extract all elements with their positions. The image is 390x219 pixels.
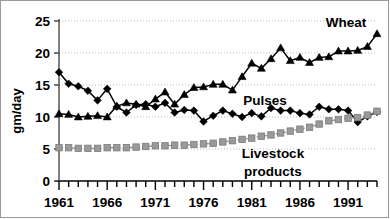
x-tick-label: 1981 (237, 195, 268, 210)
data-point-marker (248, 59, 256, 66)
y-tick-label: 10 (35, 110, 50, 125)
data-point-marker (239, 136, 245, 142)
data-point-marker (181, 142, 187, 148)
y-axis-title: gm/day (9, 87, 24, 133)
y-tick-label: 5 (42, 142, 50, 157)
data-series-layer (55, 30, 381, 152)
data-point-marker (65, 145, 71, 151)
data-point-marker (191, 141, 197, 147)
y-tick-label: 20 (35, 46, 50, 61)
data-point-marker (277, 130, 283, 136)
data-point-marker (296, 53, 304, 60)
data-point-marker (286, 107, 294, 115)
series-label-livestock-line1: Livestock (242, 146, 305, 161)
x-tick-label: 1971 (140, 195, 171, 210)
x-tick-label: 1991 (333, 195, 364, 210)
data-point-marker (200, 141, 206, 147)
y-tick-label: 15 (35, 78, 51, 93)
x-tick-label: 1966 (92, 195, 123, 210)
chart-frame: 0510152025 1961196619711976198119861991 … (0, 0, 389, 218)
data-point-marker (122, 99, 130, 106)
series-label-livestock-line2: products (244, 164, 302, 179)
data-point-marker (326, 118, 332, 124)
x-tick-label: 1961 (44, 195, 75, 210)
data-point-marker (133, 144, 139, 150)
series-line (59, 34, 377, 117)
x-tick-label: 1976 (189, 195, 220, 210)
data-point-marker (297, 126, 303, 132)
data-point-marker (287, 128, 293, 134)
data-point-marker (94, 145, 100, 151)
data-point-marker (374, 108, 380, 114)
data-point-marker (152, 103, 160, 111)
data-point-marker (74, 82, 82, 90)
data-point-marker (364, 112, 370, 118)
y-tick-label: 0 (42, 174, 50, 189)
data-point-marker (56, 145, 62, 151)
series-livestock-products (56, 108, 380, 152)
series-annotations: WheatPulsesLivestockproducts (242, 15, 367, 179)
series-label-wheat: Wheat (326, 15, 367, 30)
data-point-marker (277, 44, 285, 51)
data-point-marker (85, 145, 91, 151)
data-point-marker (123, 145, 129, 151)
data-point-marker (335, 116, 341, 122)
data-point-marker (355, 114, 361, 120)
data-point-marker (258, 133, 264, 139)
data-point-marker (209, 112, 217, 120)
data-point-marker (152, 143, 158, 149)
y-axis-ticks: 0510152025 (35, 14, 60, 189)
data-point-marker (161, 88, 169, 95)
data-point-marker (335, 106, 343, 114)
data-point-marker (316, 121, 322, 127)
data-point-marker (306, 124, 312, 130)
data-point-marker (345, 115, 351, 121)
data-point-marker (171, 142, 177, 148)
x-tick-label: 1986 (285, 195, 316, 210)
data-point-marker (229, 137, 235, 143)
data-point-marker (210, 140, 216, 146)
data-point-marker (219, 107, 227, 115)
data-point-marker (75, 145, 81, 151)
data-point-marker (220, 139, 226, 145)
data-point-marker (229, 110, 237, 118)
data-point-marker (114, 145, 120, 151)
series-wheat (55, 30, 381, 120)
y-tick-label: 25 (35, 14, 51, 29)
data-point-marker (325, 106, 333, 114)
data-point-marker (180, 106, 188, 114)
data-point-marker (238, 113, 246, 121)
data-point-marker (248, 109, 256, 117)
data-point-marker (373, 30, 381, 37)
x-axis-ticks: 1961196619711976198119861991 (44, 181, 377, 210)
y-axis-title-text: gm/day (9, 87, 24, 133)
data-point-marker (104, 145, 110, 151)
line-chart: 0510152025 1961196619711976198119861991 … (1, 1, 390, 219)
data-point-marker (162, 143, 168, 149)
series-label-pulses: Pulses (243, 93, 287, 108)
data-point-marker (296, 109, 304, 117)
data-point-marker (306, 59, 314, 66)
data-point-marker (268, 132, 274, 138)
data-point-marker (249, 135, 255, 141)
data-point-marker (143, 143, 149, 149)
